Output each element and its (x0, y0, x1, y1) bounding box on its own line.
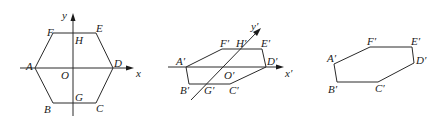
y-axis-arrow-icon (71, 13, 76, 21)
label-A-prime: A′ (175, 55, 186, 67)
diagram-canvas: x y O A B C D E F H G x′ y′ O′ A′ B′ C′ … (0, 0, 442, 122)
label-x-prime: x′ (284, 67, 293, 79)
label-O: O (61, 69, 69, 81)
label-E: E (95, 22, 103, 34)
label-H: H (74, 34, 84, 46)
label-D-prime: D′ (266, 55, 278, 67)
label-y: y (61, 9, 67, 21)
label-B-prime: B′ (180, 84, 190, 96)
x-axis-arrow-icon (126, 66, 134, 71)
label-C-prime: C′ (229, 84, 239, 96)
figure-oblique-axes-hexagon: x′ y′ O′ A′ B′ C′ D′ E′ F′ H′ G′ (168, 20, 293, 100)
label-B-prime-final: B′ (328, 83, 338, 95)
label-A: A (25, 60, 33, 72)
label-H-prime: H′ (235, 37, 247, 49)
label-A-prime-final: A′ (326, 52, 337, 64)
figure-original-hexagon: x y O A B C D E F H G (20, 9, 141, 116)
label-C-prime-final: C′ (375, 82, 385, 94)
label-C: C (96, 102, 104, 114)
label-x: x (135, 67, 141, 79)
hexagon-A'B'C'D'E'F'-final (334, 47, 414, 82)
label-y-prime: y′ (250, 20, 259, 32)
label-G-prime: G′ (204, 84, 215, 96)
label-G: G (75, 91, 83, 103)
label-F-prime-final: F′ (366, 35, 377, 47)
figure-intuitive-drawing-hexagon: A′ B′ C′ D′ E′ F′ (326, 35, 427, 95)
label-D-prime-final: D′ (415, 54, 427, 66)
label-D: D (113, 57, 122, 69)
diagram-stage: x y O A B C D E F H G x′ y′ O′ A′ B′ C′ … (0, 0, 442, 122)
label-F-prime: F′ (219, 37, 230, 49)
label-E-prime: E′ (260, 37, 271, 49)
label-B: B (44, 103, 51, 115)
label-O-prime: O′ (224, 69, 235, 81)
label-E-prime-final: E′ (410, 35, 421, 47)
label-F: F (46, 26, 54, 38)
